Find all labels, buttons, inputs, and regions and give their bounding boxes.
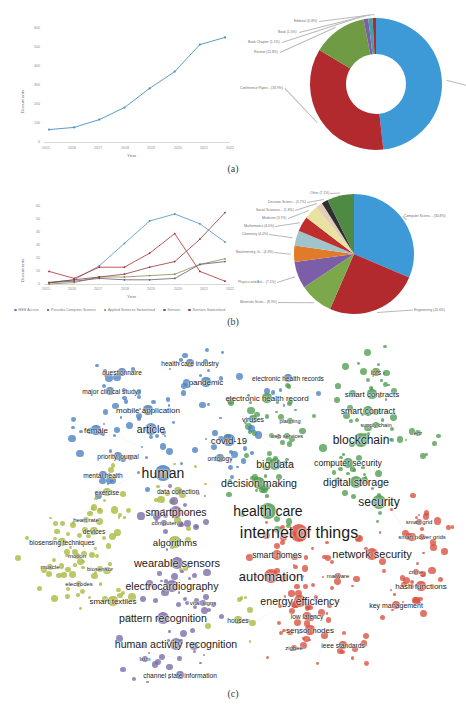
network-term-label[interactable]: web services bbox=[271, 433, 303, 439]
network-node[interactable] bbox=[247, 607, 253, 613]
network-node[interactable] bbox=[316, 662, 319, 665]
network-term-label[interactable]: health care bbox=[233, 503, 302, 519]
network-node[interactable] bbox=[149, 435, 153, 439]
legend-item[interactable]: IEEE Access bbox=[14, 308, 39, 312]
network-node[interactable] bbox=[303, 584, 308, 589]
network-term-label[interactable]: electrocardiography bbox=[125, 580, 218, 592]
network-node[interactable] bbox=[157, 571, 161, 575]
network-node[interactable] bbox=[382, 569, 386, 573]
network-node[interactable] bbox=[140, 596, 146, 602]
network-node[interactable] bbox=[186, 526, 191, 531]
network-node[interactable] bbox=[94, 547, 97, 550]
network-node[interactable] bbox=[120, 416, 122, 418]
network-term-label[interactable]: electrodes bbox=[65, 581, 93, 587]
network-node[interactable] bbox=[436, 434, 441, 439]
network-term-label[interactable]: sensor nodes bbox=[286, 626, 334, 635]
network-term-label[interactable]: blockchain bbox=[333, 433, 390, 447]
network-node[interactable] bbox=[451, 525, 455, 529]
network-node[interactable] bbox=[82, 560, 85, 563]
legend-item[interactable]: Sensors bbox=[163, 308, 180, 312]
network-term-label[interactable]: human activity recognition bbox=[115, 638, 237, 650]
network-node[interactable] bbox=[99, 478, 106, 485]
network-node[interactable] bbox=[79, 430, 83, 434]
network-node[interactable] bbox=[349, 419, 353, 423]
network-node[interactable] bbox=[390, 438, 394, 442]
network-term-label[interactable]: decision making bbox=[221, 477, 297, 489]
network-node[interactable] bbox=[430, 544, 437, 551]
network-term-label[interactable]: crime bbox=[409, 569, 424, 575]
network-node[interactable] bbox=[244, 453, 249, 458]
network-term-label[interactable]: smartphones bbox=[145, 506, 206, 518]
network-node[interactable] bbox=[192, 573, 197, 578]
network-node[interactable] bbox=[152, 661, 159, 668]
network-node[interactable] bbox=[240, 596, 244, 600]
network-node[interactable] bbox=[274, 543, 280, 549]
network-node[interactable] bbox=[106, 543, 111, 548]
network-term-label[interactable]: internet of things bbox=[240, 524, 358, 542]
network-node[interactable] bbox=[111, 463, 115, 467]
network-node[interactable] bbox=[192, 447, 198, 453]
network-term-label[interactable]: covid-19 bbox=[211, 435, 247, 446]
network-node[interactable] bbox=[91, 573, 97, 579]
network-term-label[interactable]: smart contract bbox=[341, 406, 395, 416]
network-term-label[interactable]: smart power grids bbox=[398, 534, 446, 540]
network-node[interactable] bbox=[420, 527, 424, 531]
network-term-label[interactable]: supply chain bbox=[360, 422, 391, 428]
network-node[interactable] bbox=[98, 508, 101, 511]
network-node[interactable] bbox=[151, 400, 155, 404]
network-node[interactable] bbox=[428, 567, 435, 574]
network-term-label[interactable]: electronic health record bbox=[225, 394, 308, 403]
network-term-label[interactable]: pandemic bbox=[189, 378, 224, 387]
network-node[interactable] bbox=[308, 639, 310, 641]
network-node[interactable] bbox=[393, 593, 396, 596]
network-node[interactable] bbox=[236, 466, 238, 468]
network-node[interactable] bbox=[379, 531, 381, 533]
network-node[interactable] bbox=[248, 425, 255, 432]
network-term-label[interactable]: malware bbox=[327, 573, 350, 579]
network-node[interactable] bbox=[203, 569, 211, 577]
network-node[interactable] bbox=[145, 456, 148, 459]
network-node[interactable] bbox=[99, 582, 103, 586]
network-node[interactable] bbox=[342, 363, 349, 370]
network-node[interactable] bbox=[377, 363, 380, 366]
network-node[interactable] bbox=[416, 562, 419, 565]
network-node[interactable] bbox=[80, 589, 85, 594]
network-term-label[interactable]: heart rate bbox=[73, 517, 99, 523]
network-term-label[interactable]: computer bbox=[151, 520, 176, 526]
network-node[interactable] bbox=[102, 536, 106, 540]
network-node[interactable] bbox=[76, 450, 84, 458]
network-node[interactable] bbox=[199, 402, 206, 409]
network-node[interactable] bbox=[120, 491, 125, 496]
network-node[interactable] bbox=[103, 499, 106, 502]
network-node[interactable] bbox=[366, 378, 370, 382]
network-node[interactable] bbox=[279, 388, 282, 391]
network-node[interactable] bbox=[146, 681, 148, 683]
network-term-label[interactable]: priority journal bbox=[97, 453, 138, 460]
network-term-label[interactable]: lstm bbox=[140, 656, 151, 662]
network-term-label[interactable]: biosensor bbox=[87, 566, 113, 572]
network-term-label[interactable]: energy efficiency bbox=[260, 595, 339, 607]
network-node[interactable] bbox=[390, 589, 392, 591]
network-node[interactable] bbox=[279, 631, 283, 635]
network-node[interactable] bbox=[180, 630, 187, 637]
network-node[interactable] bbox=[166, 664, 172, 670]
network-node[interactable] bbox=[380, 379, 383, 382]
network-node[interactable] bbox=[326, 612, 329, 615]
network-node[interactable] bbox=[56, 573, 61, 578]
network-node[interactable] bbox=[410, 493, 415, 498]
network-node[interactable] bbox=[137, 512, 144, 519]
network-node[interactable] bbox=[319, 444, 326, 451]
network-node[interactable] bbox=[61, 572, 66, 577]
network-term-label[interactable]: smart textiles bbox=[89, 597, 136, 606]
network-term-label[interactable]: ipfs bbox=[371, 369, 381, 376]
network-term-label[interactable]: low latency bbox=[291, 613, 324, 620]
network-node[interactable] bbox=[157, 496, 164, 503]
network-node[interactable] bbox=[351, 585, 353, 587]
network-node[interactable] bbox=[65, 594, 70, 599]
network-term-label[interactable]: muscle bbox=[40, 564, 59, 570]
network-term-label[interactable]: major clinical study bbox=[82, 388, 138, 395]
network-node[interactable] bbox=[304, 555, 308, 559]
network-term-label[interactable]: female bbox=[84, 426, 108, 435]
network-node[interactable] bbox=[111, 506, 118, 513]
network-term-label[interactable]: smart contracts bbox=[345, 390, 400, 399]
